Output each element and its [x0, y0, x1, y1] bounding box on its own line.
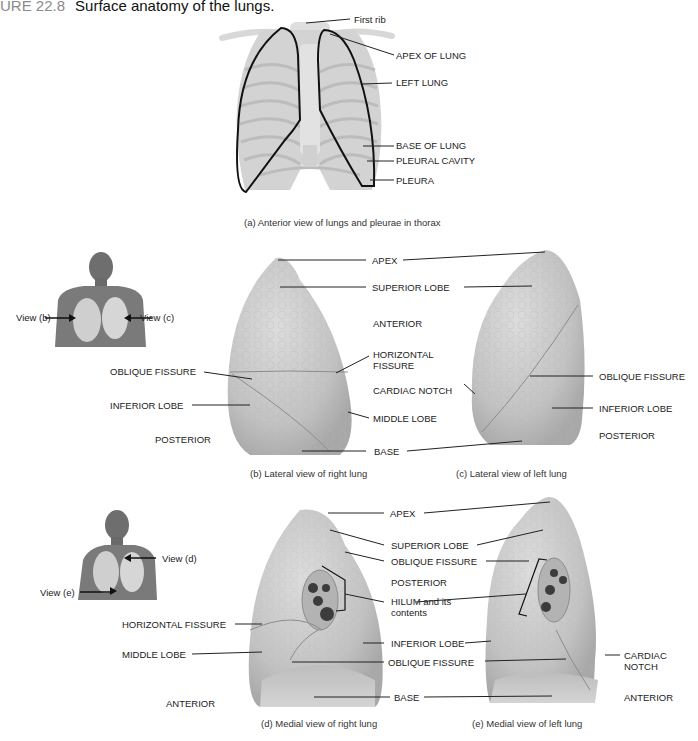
label-base-of-lung: BASE OF LUNG — [396, 140, 466, 151]
label-hilum-de: HILUM and its contents — [391, 596, 451, 618]
caption-panel-d: (d) Medial view of right lung — [261, 718, 377, 729]
label-apex-bc: APEX — [372, 255, 397, 266]
anatomy-artwork — [0, 0, 698, 741]
label-view-c: View (c) — [140, 312, 174, 323]
label-horizontal-fissure-line2: FISSURE — [373, 360, 414, 371]
torso-figure-de — [78, 510, 157, 600]
label-anterior-bc: ANTERIOR — [373, 318, 422, 329]
label-horizontal-fissure-bc: HORIZONTAL FISSURE — [373, 349, 434, 371]
caption-panel-b: (b) Lateral view of right lung — [250, 468, 367, 479]
label-inferior-lobe-de: INFERIOR LOBE — [391, 638, 464, 649]
left-lung-lateral — [472, 250, 585, 445]
label-b-inferior-lobe: INFERIOR LOBE — [110, 400, 183, 411]
label-oblique-fissure-bottom-de: OBLIQUE FISSURE — [388, 657, 474, 668]
label-cardiac-line2: NOTCH — [624, 661, 658, 672]
label-hilum-line1: HILUM and its — [391, 596, 451, 607]
label-hilum-line2: contents — [391, 607, 427, 618]
label-apex-de: APEX — [390, 508, 415, 519]
caption-panel-c: (c) Lateral view of left lung — [456, 468, 567, 479]
label-view-d: View (d) — [162, 553, 197, 564]
label-d-horizontal-fissure: HORIZONTAL FISSURE — [122, 619, 226, 630]
label-cardiac-line1: CARDIAC — [624, 650, 667, 661]
label-d-middle-lobe: MIDDLE LOBE — [122, 649, 186, 660]
label-pleural-cavity: PLEURAL CAVITY — [396, 155, 475, 166]
caption-panel-e: (e) Medial view of left lung — [472, 718, 582, 729]
label-posterior-de: POSTERIOR — [391, 577, 447, 588]
label-cardiac-notch-bc: CARDIAC NOTCH — [373, 385, 452, 396]
label-e-anterior: ANTERIOR — [624, 692, 673, 703]
torso-figure-bc — [45, 252, 152, 347]
label-c-inferior-lobe: INFERIOR LOBE — [599, 403, 672, 414]
label-horizontal-fissure-line1: HORIZONTAL — [373, 349, 434, 360]
label-d-anterior: ANTERIOR — [166, 698, 215, 709]
label-apex-of-lung: APEX OF LUNG — [396, 50, 466, 61]
thorax-diagram — [222, 19, 394, 192]
label-b-posterior: POSTERIOR — [155, 434, 211, 445]
label-base-bc: BASE — [374, 446, 399, 457]
label-c-oblique-fissure: OBLIQUE FISSURE — [599, 371, 685, 382]
label-pleura: PLEURA — [396, 175, 434, 186]
label-b-oblique-fissure: OBLIQUE FISSURE — [110, 366, 196, 377]
label-e-cardiac-notch: CARDIAC NOTCH — [624, 650, 667, 672]
label-oblique-fissure-top-de: OBLIQUE FISSURE — [391, 556, 477, 567]
label-c-posterior: POSTERIOR — [599, 430, 655, 441]
label-middle-lobe-bc: MIDDLE LOBE — [373, 413, 437, 424]
label-view-b: View (b) — [16, 312, 51, 323]
label-superior-lobe-de: SUPERIOR LOBE — [391, 540, 469, 551]
label-first-rib: First rib — [354, 14, 386, 25]
left-lung-medial — [486, 497, 598, 703]
caption-panel-a: (a) Anterior view of lungs and pleurae i… — [244, 217, 440, 228]
label-left-lung: LEFT LUNG — [396, 77, 448, 88]
label-superior-lobe-bc: SUPERIOR LOBE — [372, 282, 450, 293]
label-view-e: View (e) — [40, 587, 75, 598]
label-base-de: BASE — [394, 692, 419, 703]
